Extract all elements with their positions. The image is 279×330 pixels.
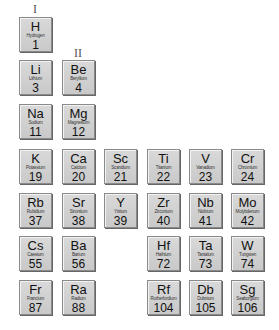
element-tile-yttrium: YYttrium39 [104, 193, 137, 228]
element-symbol: Rf [148, 283, 179, 296]
atomic-number: 19 [20, 171, 51, 183]
atomic-number: 11 [20, 126, 51, 138]
element-symbol: Ti [148, 152, 179, 165]
element-symbol: Cr [232, 152, 263, 165]
element-symbol: Sg [232, 283, 263, 296]
atomic-number: 24 [232, 171, 263, 183]
element-symbol: Zr [148, 196, 179, 209]
element-tile-vanadium: VVanadium23 [189, 149, 222, 184]
atomic-number: 40 [148, 215, 179, 227]
element-tile-hafnium: HfHafnium72 [147, 236, 180, 271]
element-symbol: K [20, 152, 51, 165]
atomic-number: 38 [63, 215, 94, 227]
element-symbol: V [190, 152, 221, 165]
element-symbol: Sc [105, 152, 136, 165]
element-tile-rubidium: RbRubidium37 [19, 193, 52, 228]
element-tile-lithium: LiLithium3 [19, 60, 52, 95]
element-tile-beryllium: BeBeryllium4 [62, 60, 95, 95]
element-symbol: Na [20, 107, 51, 120]
element-tile-strontium: SrStrontium38 [62, 193, 95, 228]
atomic-number: 37 [20, 215, 51, 227]
element-tile-barium: BaBarium56 [62, 236, 95, 271]
atomic-number: 20 [63, 171, 94, 183]
atomic-number: 55 [20, 258, 51, 270]
atomic-number: 22 [148, 171, 179, 183]
atomic-number: 74 [232, 258, 263, 270]
element-symbol: Db [190, 283, 221, 296]
element-tile-molybdenum: MoMolybdenum42 [231, 193, 264, 228]
element-tile-rutherfordium: RfRutherfordium104 [147, 280, 180, 315]
element-tile-tantalum: TaTantalum73 [189, 236, 222, 271]
element-tile-dubnium: DbDubnium105 [189, 280, 222, 315]
element-tile-scandium: ScScandium21 [104, 149, 137, 184]
element-symbol: Y [105, 196, 136, 209]
element-symbol: Mg [63, 107, 94, 120]
element-tile-seaborgium: SgSeaborgium106 [231, 280, 264, 315]
element-tile-zirconium: ZrZirconium40 [147, 193, 180, 228]
element-tile-caesium: CsCaesium55 [19, 236, 52, 271]
atomic-number: 56 [63, 258, 94, 270]
element-tile-calcium: CaCalcium20 [62, 149, 95, 184]
element-symbol: Ta [190, 239, 221, 252]
element-symbol: Rb [20, 196, 51, 209]
element-tile-hydrogen: HHydrogen1 [19, 17, 52, 52]
element-symbol: Mo [232, 196, 263, 209]
atomic-number: 4 [63, 82, 94, 94]
group-label: I [18, 2, 52, 17]
element-tile-sodium: NaSodium11 [19, 104, 52, 139]
element-tile-radium: RaRadium88 [62, 280, 95, 315]
element-symbol: Ca [63, 152, 94, 165]
element-symbol: Ba [63, 239, 94, 252]
element-symbol: Li [20, 63, 51, 76]
element-symbol: Be [63, 63, 94, 76]
atomic-number: 21 [105, 171, 136, 183]
element-symbol: Ra [63, 283, 94, 296]
atomic-number: 23 [190, 171, 221, 183]
element-tile-magnesium: MgMagnesium12 [62, 104, 95, 139]
element-tile-francium: FrFrancium87 [19, 280, 52, 315]
atomic-number: 104 [148, 302, 179, 314]
element-tile-tungsten: WTungsten74 [231, 236, 264, 271]
group-label: II [61, 46, 95, 61]
atomic-number: 41 [190, 215, 221, 227]
element-tile-potassium: KPotassium19 [19, 149, 52, 184]
element-tile-titanium: TiTitanium22 [147, 149, 180, 184]
atomic-number: 12 [63, 126, 94, 138]
element-symbol: W [232, 239, 263, 252]
element-tile-chromium: CrChromium24 [231, 149, 264, 184]
element-symbol: Sr [63, 196, 94, 209]
element-symbol: Hf [148, 239, 179, 252]
atomic-number: 88 [63, 302, 94, 314]
element-symbol: Fr [20, 283, 51, 296]
atomic-number: 3 [20, 82, 51, 94]
atomic-number: 39 [105, 215, 136, 227]
atomic-number: 42 [232, 215, 263, 227]
element-symbol: Cs [20, 239, 51, 252]
atomic-number: 106 [232, 302, 263, 314]
atomic-number: 72 [148, 258, 179, 270]
atomic-number: 1 [20, 39, 51, 51]
atomic-number: 105 [190, 302, 221, 314]
element-symbol: Nb [190, 196, 221, 209]
atomic-number: 73 [190, 258, 221, 270]
atomic-number: 87 [20, 302, 51, 314]
element-tile-niobium: NbNiobium41 [189, 193, 222, 228]
element-symbol: H [20, 20, 51, 33]
